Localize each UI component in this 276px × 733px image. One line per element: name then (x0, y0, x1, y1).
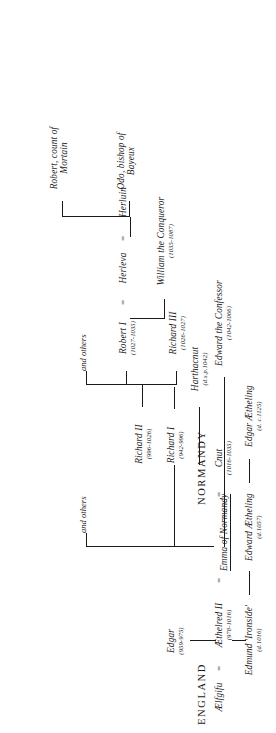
person-name: Richard II (134, 407, 144, 481)
person-dates: (978-1016) (225, 587, 232, 663)
person-robert-count-of-mortain: Robert, count of Mortain (49, 115, 69, 201)
connector-herluin-children-riser (62, 216, 130, 217)
connector-edwardaetheling-edgaraetheling (249, 459, 250, 483)
person-name: Richard I (166, 409, 176, 481)
person-richard-ii: Richard II (996-1026) (134, 407, 152, 481)
connector-robert-william (164, 299, 165, 319)
person-name: Robert I (118, 305, 128, 371)
person-dates: (942-996) (177, 409, 184, 481)
connector-edgar-aethelred (190, 640, 216, 641)
connector-richard2-to-children (142, 385, 143, 407)
marriage-sign-aethelred-emma: = (215, 578, 225, 583)
connector-richard1-others-tick (86, 533, 87, 547)
person-name: Harthacnut (190, 331, 200, 407)
connector-cnut-harthacnut (199, 407, 200, 465)
person-dates: (d. c.1125) (255, 373, 262, 459)
person-name: Cnut (214, 427, 224, 489)
person-robert-i: Robert I (1027-1035) (118, 305, 136, 371)
connector-emma-edwardconfessor (224, 377, 225, 547)
person-harthacnut: Harthacnut (d.s.p.1042) (190, 331, 208, 407)
person-name: Herleva (118, 241, 128, 295)
connector-richard1-children-riser (86, 546, 174, 547)
person-dates: (d.1016) (255, 595, 262, 685)
person-dates: (d.1057) (255, 483, 262, 571)
connector-richard2-robert1 (126, 371, 127, 385)
label-and-others-2: and others (79, 334, 88, 371)
person-name: Edmund 'Ironside' (244, 595, 254, 685)
person-dates: (1027-1035) (129, 305, 136, 371)
person-edgar: Edgar (959-975) (166, 605, 184, 677)
person-dates: (959-975) (177, 605, 184, 677)
connector-richard1-bracket-right (174, 387, 175, 409)
person-dates: (1016-1035) (225, 427, 232, 489)
label-and-others-1: and others (79, 496, 88, 533)
person-william-the-conqueror: William the Conqueror (1035-1087) (156, 183, 174, 299)
person-richard-iii: Richard III (1026-1027) (168, 295, 186, 371)
person-name: William the Conqueror (156, 183, 166, 299)
person-edgar-aetheling: Edgar Ætheling (d. c.1125) (244, 373, 262, 459)
person-herleva: Herleva (118, 241, 128, 295)
person-aelfgifu: Ælfgifu (214, 669, 224, 725)
connector-richard2-children-riser (86, 384, 176, 385)
person-dates: (1026-1027) (179, 295, 186, 371)
person-name: Ælfgifu (214, 669, 224, 725)
person-name: Odo, bishop of (116, 121, 126, 201)
marriage-sign-aelfgifu-aethelred: = (215, 666, 225, 671)
person-dates: (1042-1066) (225, 269, 232, 377)
person-name: Edward Ætheling (244, 483, 254, 571)
person-name: Edward the Confessor (214, 269, 224, 377)
connector-herluin-odo (129, 201, 130, 217)
heading-normandy: NORMANDY (196, 430, 207, 505)
person-dates: (d.s.p.1042) (201, 331, 208, 407)
genealogy-diagram: ENGLAND NORMANDY Edgar (959-975) Ælfgifu… (0, 0, 276, 733)
connector-robert-william-riser (130, 318, 164, 319)
person-dates: (1035-1087) (167, 183, 174, 299)
person-edward-aetheling: Edward Ætheling (d.1057) (244, 483, 262, 571)
connector-herleva-herluin-drop (130, 217, 131, 237)
connector-richard2-richard3 (176, 371, 177, 385)
person-name-line2: Bayeux (126, 121, 136, 201)
connector-edmund-edwardaetheling (249, 571, 250, 595)
person-name: Edgar Ætheling (244, 373, 254, 459)
person-name: Edgar (166, 605, 176, 677)
person-name-line2: Mortain (59, 115, 69, 201)
person-edward-the-confessor: Edward the Confessor (1042-1066) (214, 269, 232, 377)
person-dates: (996-1026) (145, 407, 152, 481)
connector-emma-upbar (174, 546, 214, 547)
person-richard-i: Richard I (942-996) (166, 409, 184, 481)
person-aethelred-ii: Æthelred II (978-1016) (214, 587, 232, 663)
person-emma-of-normandy: Emma of Normandy (213, 494, 230, 571)
connector-richard2-others-tick (86, 371, 87, 385)
connector-herluin-mortain (62, 201, 63, 217)
person-name: Æthelred II (214, 587, 224, 663)
person-odo-bishop-of-bayeux: Odo, bishop of Bayeux (116, 121, 136, 201)
person-name: Robert, count of (49, 115, 59, 201)
heading-england: ENGLAND (196, 663, 207, 725)
person-name: Richard III (168, 295, 178, 371)
marriage-sign-robert-herleva: = (119, 300, 129, 305)
person-edmund-ironside: Edmund 'Ironside' (d.1016) (244, 595, 262, 685)
marriage-sign-herleva-herluin: = (119, 236, 129, 241)
person-cnut: Cnut (1016-1035) (214, 427, 232, 489)
